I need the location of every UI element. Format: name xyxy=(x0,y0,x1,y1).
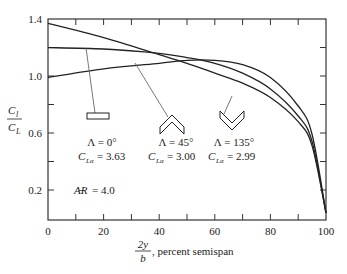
svg-text:= 3.63: = 3.63 xyxy=(97,150,126,162)
x-tick-label: 0 xyxy=(45,225,51,237)
svg-text:Λ = 45°: Λ = 45° xyxy=(159,136,194,148)
y-tick-label: 0.6 xyxy=(28,127,42,139)
xlabel-text: , percent semispan xyxy=(152,245,234,257)
svg-text:C: C xyxy=(78,150,86,162)
svg-text:A̶R: A̶R xyxy=(73,184,88,196)
ylabel-denominator: C xyxy=(8,121,16,133)
svg-text:= 4.0: = 4.0 xyxy=(92,184,115,196)
x-tick-label: 60 xyxy=(209,225,221,237)
svg-text:= 2.99: = 2.99 xyxy=(227,150,256,162)
ylabel-numerator: C xyxy=(8,104,16,116)
y-tick-label: 0.2 xyxy=(28,184,42,196)
x-tick-label: 100 xyxy=(318,225,335,237)
annotation-aspect-ratio: A̶R = 4.0 xyxy=(73,184,115,196)
y-tick-label: 1.0 xyxy=(28,70,42,82)
annotation-sweep-0: Λ = 0° C Lα = 3.63 xyxy=(78,136,126,165)
svg-text:C: C xyxy=(208,150,216,162)
rectangular-wing-icon xyxy=(87,113,109,119)
ylabel-numerator-sub: l xyxy=(16,110,19,119)
svg-text:C: C xyxy=(148,150,156,162)
svg-text:Lα: Lα xyxy=(155,157,164,165)
svg-text:Lα: Lα xyxy=(215,157,224,165)
x-tick-label: 20 xyxy=(98,225,110,237)
y-tick-label: 1.4 xyxy=(28,13,42,25)
svg-text:Λ = 135°: Λ = 135° xyxy=(214,136,254,148)
pointer-lines xyxy=(86,48,232,117)
y-axis-label: C l C L xyxy=(7,104,22,136)
xlabel-numerator: 2y xyxy=(138,238,149,250)
svg-text:Lα: Lα xyxy=(85,157,94,165)
svg-text:= 3.00: = 3.00 xyxy=(167,150,196,162)
x-axis-label: 2y b , percent semispan xyxy=(135,238,234,264)
swept-forward-wing-icon xyxy=(220,111,244,130)
x-tick-label: 40 xyxy=(154,225,166,237)
swept-back-wing-icon xyxy=(160,115,184,134)
ylabel-denominator-sub: L xyxy=(15,127,21,136)
svg-text:Λ = 0°: Λ = 0° xyxy=(87,136,116,148)
annotation-sweep-135: Λ = 135° C Lα = 2.99 xyxy=(208,136,256,165)
x-tick-label: 80 xyxy=(265,225,277,237)
figure-caption-faint xyxy=(0,262,347,274)
annotation-sweep-45: Λ = 45° C Lα = 3.00 xyxy=(148,136,196,165)
chart: 1.4 1.0 0.6 0.2 0 20 40 60 80 100 C l C … xyxy=(0,0,347,274)
